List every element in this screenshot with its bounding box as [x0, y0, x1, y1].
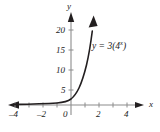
x-tick-label-neg2: –2: [37, 110, 46, 119]
y-tick-label-15: 15: [56, 46, 65, 55]
curve-equation-label: y = 3(4x): [92, 42, 126, 52]
x-tick-label-neg4: –4: [9, 110, 18, 119]
y-axis-label: y: [67, 2, 71, 11]
y-tick-label-5: 5: [61, 86, 66, 95]
x-tick-label-zero: 0: [63, 110, 68, 119]
curve-arrowhead: [89, 16, 98, 28]
graph-canvas: [0, 0, 160, 132]
x-axis-right-arrowhead: [135, 102, 144, 108]
y-axis-top-arrowhead: [68, 12, 74, 22]
x-axis-label: x: [149, 100, 153, 109]
exponential-curve: [14, 31, 92, 104]
exponential-graph-figure: –4 –2 0 2 4 5 10 15 20 x y y = 3(4x): [0, 0, 160, 132]
y-tick-label-20: 20: [56, 26, 65, 35]
x-tick-label-4: 4: [124, 110, 129, 119]
curve-equation-base: y = 3(4: [92, 41, 120, 51]
x-tick-label-2: 2: [96, 110, 101, 119]
curve-equation-close: ): [123, 41, 126, 51]
y-tick-label-10: 10: [56, 66, 65, 75]
